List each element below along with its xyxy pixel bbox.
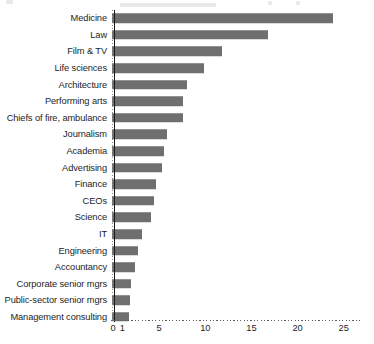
bar-row: Chiefs of fire, ambulance bbox=[0, 110, 374, 127]
category-label: Architecture bbox=[0, 80, 110, 90]
bar-row: Advertising bbox=[0, 159, 374, 176]
category-label: Life sciences bbox=[0, 63, 110, 73]
x-tick-label: 5 bbox=[157, 323, 162, 334]
bar-track bbox=[110, 43, 374, 60]
bar-row: Life sciences bbox=[0, 60, 374, 77]
x-tick-label: 15 bbox=[246, 323, 256, 334]
bar-track bbox=[110, 226, 374, 243]
bar-track bbox=[110, 143, 374, 160]
x-tick-label: 0 bbox=[110, 323, 115, 334]
bar bbox=[112, 47, 223, 57]
plot-area: MedicineLawFilm & TVLife sciencesArchite… bbox=[0, 10, 374, 316]
bar-track bbox=[110, 93, 374, 110]
bar bbox=[112, 14, 334, 24]
bar bbox=[112, 246, 139, 256]
category-label: Accountancy bbox=[0, 262, 110, 272]
x-tick-label: 20 bbox=[292, 323, 302, 334]
bar-track bbox=[110, 193, 374, 210]
bar-track bbox=[110, 209, 374, 226]
category-label: Public-sector senior mgrs bbox=[0, 295, 110, 305]
bar-row: Journalism bbox=[0, 126, 374, 143]
bar-row: Finance bbox=[0, 176, 374, 193]
x-axis-dotted-line bbox=[111, 320, 363, 321]
bar-track bbox=[110, 76, 374, 93]
x-tick-label: 10 bbox=[200, 323, 210, 334]
category-label: Medicine bbox=[0, 13, 110, 23]
bar-row: Accountancy bbox=[0, 259, 374, 276]
category-label: Academia bbox=[0, 146, 110, 156]
bar-row: Corporate senior mgrs bbox=[0, 276, 374, 293]
bar bbox=[112, 229, 142, 239]
bar bbox=[112, 146, 165, 156]
bar bbox=[112, 163, 163, 173]
category-label: Engineering bbox=[0, 246, 110, 256]
bar-track bbox=[110, 27, 374, 44]
bar-track bbox=[110, 126, 374, 143]
category-label: Finance bbox=[0, 179, 110, 189]
category-label: Performing arts bbox=[0, 96, 110, 106]
category-label: Corporate senior mgrs bbox=[0, 279, 110, 289]
bar-track bbox=[110, 242, 374, 259]
bar bbox=[112, 130, 167, 140]
y-axis-line bbox=[114, 10, 115, 322]
bar bbox=[112, 63, 204, 73]
bar-track bbox=[110, 276, 374, 293]
category-label: IT bbox=[0, 229, 110, 239]
bar-row: CEOs bbox=[0, 193, 374, 210]
category-label: Chiefs of fire, ambulance bbox=[0, 113, 110, 123]
bar-track bbox=[110, 176, 374, 193]
zero-gridline bbox=[112, 10, 113, 322]
bar-row: Medicine bbox=[0, 10, 374, 27]
x-tick-label: 1 bbox=[120, 323, 125, 334]
bar-row: Film & TV bbox=[0, 43, 374, 60]
bar bbox=[112, 196, 154, 206]
bar bbox=[112, 213, 152, 223]
bar-row: Engineering bbox=[0, 242, 374, 259]
bar-row: Architecture bbox=[0, 76, 374, 93]
bar bbox=[112, 30, 269, 40]
bar-chart: MedicineLawFilm & TVLife sciencesArchite… bbox=[0, 0, 374, 344]
bar bbox=[112, 179, 156, 189]
category-label: Film & TV bbox=[0, 46, 110, 56]
bar-row: Public-sector senior mgrs bbox=[0, 292, 374, 309]
category-label: Law bbox=[0, 30, 110, 40]
bar-track bbox=[110, 259, 374, 276]
category-label: Advertising bbox=[0, 163, 110, 173]
bar bbox=[112, 97, 184, 107]
x-axis: 01510152025 bbox=[0, 320, 374, 344]
category-label: Journalism bbox=[0, 129, 110, 139]
bar-track bbox=[110, 110, 374, 127]
bar-row: Science bbox=[0, 209, 374, 226]
bar-row: IT bbox=[0, 226, 374, 243]
category-label: CEOs bbox=[0, 196, 110, 206]
bar-track bbox=[110, 60, 374, 77]
scan-artifact-sliver bbox=[0, 0, 374, 9]
category-label: Science bbox=[0, 212, 110, 222]
bar bbox=[112, 113, 183, 123]
bar-track bbox=[110, 292, 374, 309]
bar-row: Performing arts bbox=[0, 93, 374, 110]
bar-track bbox=[110, 159, 374, 176]
bar bbox=[112, 80, 188, 90]
bar-track bbox=[110, 10, 374, 27]
x-tick-label: 25 bbox=[339, 323, 349, 334]
bar-row: Law bbox=[0, 27, 374, 44]
bar-row: Academia bbox=[0, 143, 374, 160]
